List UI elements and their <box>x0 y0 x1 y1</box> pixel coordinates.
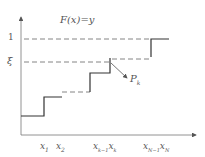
x-label-sub: k−1 <box>98 147 108 153</box>
x-label-sub: 2 <box>61 146 65 153</box>
x-label-sub: k <box>114 147 117 153</box>
point-label-pk: Pk <box>130 73 140 86</box>
y-label-xi: ξ <box>7 55 13 66</box>
x-label-x1: x1 <box>40 141 49 153</box>
pk-pointer-arrow <box>111 63 127 78</box>
axes <box>21 17 196 135</box>
step-function <box>21 39 169 116</box>
function-label: F(x)=y <box>60 14 94 25</box>
step-segment-k <box>90 58 110 92</box>
point-label-base: P <box>130 73 137 84</box>
x-label-xk-1: xk−1xk <box>93 141 117 153</box>
step-segment-n <box>151 39 169 57</box>
x-label-sub: N <box>165 147 169 153</box>
cdf-step-diagram <box>0 0 205 157</box>
x-label-sub: 1 <box>45 146 49 153</box>
step-segment-1 <box>21 97 62 116</box>
x-label-xn-1: xN−1xN <box>143 141 169 153</box>
x-label-sub: N−1 <box>148 147 160 153</box>
point-label-sub: k <box>137 79 141 86</box>
x-label-x2: x2 <box>56 141 65 153</box>
y-label-one: 1 <box>8 32 14 42</box>
